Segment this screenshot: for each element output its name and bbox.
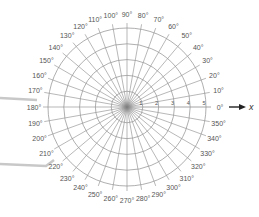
angle-label-250: 250°: [88, 191, 103, 198]
angle-label-20: 20°: [209, 72, 220, 79]
angle-label-340: 340°: [207, 135, 222, 142]
angle-label-170: 170°: [28, 87, 43, 94]
angle-label-300: 300°: [166, 184, 181, 191]
angle-label-240: 240°: [73, 184, 88, 191]
center-point: [118, 98, 136, 116]
angle-label-30: 30°: [202, 57, 213, 64]
radial-label-5: 5: [203, 100, 206, 106]
radial-label-3: 3: [171, 100, 174, 106]
angle-label-90: 90°: [122, 11, 133, 18]
angle-label-130: 130°: [60, 32, 75, 39]
angle-label-120: 120°: [73, 23, 88, 30]
angle-label-350: 350°: [211, 120, 226, 127]
radial-label-1: 1: [139, 100, 142, 106]
polar-grid-diagram: 12345 0°10°20°30°40°50°60°70°80°90°100°1…: [0, 0, 259, 217]
x-axis-arrow: x: [229, 102, 254, 112]
angle-label-10: 10°: [213, 87, 224, 94]
angle-label-230: 230°: [60, 175, 75, 182]
angle-label-200: 200°: [32, 135, 47, 142]
angle-label-0: 0°: [217, 104, 224, 111]
angle-label-290: 290°: [152, 191, 167, 198]
angle-label-260: 260°: [104, 195, 119, 202]
angle-label-180: 180°: [27, 104, 42, 111]
angle-label-310: 310°: [180, 175, 195, 182]
arrow-right-icon: [239, 104, 246, 110]
radial-label-2: 2: [155, 100, 158, 106]
angle-label-320: 320°: [191, 163, 206, 170]
angle-label-330: 330°: [200, 150, 215, 157]
angle-label-280: 280°: [136, 195, 151, 202]
angle-label-70: 70°: [154, 16, 165, 23]
angle-label-160: 160°: [32, 72, 47, 79]
angle-label-60: 60°: [168, 23, 179, 30]
angle-label-270: 270°: [120, 197, 135, 204]
polar-grid: 12345 0°10°20°30°40°50°60°70°80°90°100°1…: [0, 0, 259, 217]
x-axis-label: x: [248, 102, 254, 112]
radial-label-4: 4: [187, 100, 190, 106]
pointer-line-lower: [0, 160, 54, 166]
angle-label-50: 50°: [181, 32, 192, 39]
angle-label-150: 150°: [39, 57, 54, 64]
angle-label-80: 80°: [138, 12, 149, 19]
angle-label-110: 110°: [88, 16, 102, 23]
angle-label-190: 190°: [28, 120, 43, 127]
angle-label-40: 40°: [193, 44, 204, 51]
angle-label-140: 140°: [49, 44, 64, 51]
pointer-line-upper: [0, 98, 37, 100]
angle-label-100: 100°: [104, 12, 119, 19]
angle-label-210: 210°: [39, 150, 54, 157]
angle-label-220: 220°: [49, 163, 64, 170]
